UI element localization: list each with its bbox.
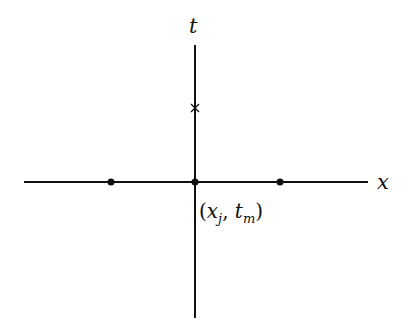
label-comma: , [222,199,235,223]
point-label: (xj, tm) [199,199,263,226]
origin-grid-point [192,179,199,186]
t-axis-label: t [189,14,198,38]
label-t-sub: m [243,211,255,226]
svg-text:(xj, tm): (xj, tm) [199,199,263,226]
left-grid-point [108,179,115,186]
label-close-paren: ) [255,199,263,223]
label-open-paren: ( [199,199,207,223]
label-x: x [207,199,218,223]
right-grid-point [277,179,284,186]
stencil-diagram: t x (xj, tm) [0,0,411,328]
x-axis-label: x [377,170,389,194]
